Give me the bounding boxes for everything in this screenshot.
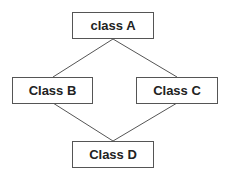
node-class-d: Class D [72, 141, 154, 168]
node-class-a: class A [72, 12, 154, 39]
edge-b-d [53, 103, 113, 141]
edge-a-b [53, 39, 113, 77]
edge-a-c [113, 39, 177, 77]
node-class-a-label: class A [90, 18, 135, 33]
node-class-d-label: Class D [89, 147, 137, 162]
node-class-c-label: Class C [153, 83, 201, 98]
node-class-c: Class C [136, 77, 218, 104]
edge-c-d [113, 103, 177, 141]
diamond-inheritance-diagram: class A Class B Class C Class D [0, 0, 231, 175]
node-class-b: Class B [12, 77, 93, 104]
node-class-b-label: Class B [29, 83, 77, 98]
